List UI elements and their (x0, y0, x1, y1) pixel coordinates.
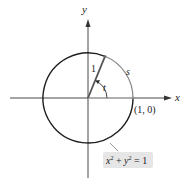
x-axis-arrow-icon (164, 96, 172, 101)
arc-label: s (126, 66, 130, 77)
y-axis-arrow-icon (86, 19, 91, 27)
radius-label: 1 (91, 63, 96, 74)
point-label: (1, 0) (134, 104, 156, 116)
diagram-svg: y x 1 s t (1, 0) x2 + y2 = 1 (0, 0, 185, 186)
angle-label: t (103, 82, 106, 93)
x-axis-label: x (174, 91, 180, 103)
point-on-circle (104, 55, 107, 58)
equation-leader-line (110, 143, 118, 151)
unit-circle-diagram: y x 1 s t (1, 0) x2 + y2 = 1 (0, 0, 185, 186)
point-1-0 (132, 97, 135, 100)
y-axis-label: y (81, 3, 87, 15)
arc-s (105, 56, 133, 98)
